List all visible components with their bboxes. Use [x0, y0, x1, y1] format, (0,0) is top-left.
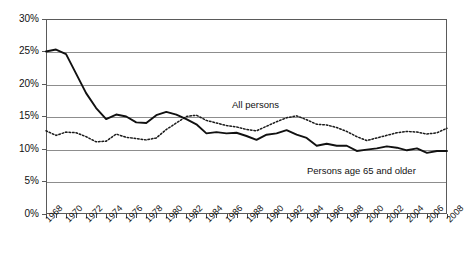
annotation-all-persons: All persons	[232, 100, 279, 110]
annotation-persons-65-older: Persons age 65 and older	[307, 166, 416, 176]
poverty-rate-line-chart: 30% 25% 20% 15% 10% 5% 0% All persons Pe…	[0, 0, 467, 259]
